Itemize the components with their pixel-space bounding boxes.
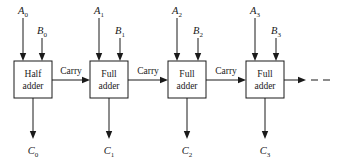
- output-c0-wire: [30, 98, 36, 139]
- adder-block-2-label-line2: adder: [176, 81, 198, 91]
- input-a0-sub: 0: [24, 11, 28, 19]
- arrowhead-icon: [262, 131, 268, 139]
- input-a0-wire: [20, 18, 26, 61]
- input-a3-wire: [252, 18, 258, 61]
- output-c3-wire: [262, 98, 268, 139]
- arrowhead-icon: [117, 53, 123, 61]
- adder-block-1[interactable]: Full adder: [90, 61, 128, 98]
- input-b2-label: B2: [193, 25, 203, 39]
- arrowhead-icon: [39, 53, 45, 61]
- input-b2-wire: [195, 38, 201, 61]
- output-c2-sub: 2: [189, 151, 193, 159]
- input-b1-wire: [117, 38, 123, 61]
- adder-block-3-label-line1: Full: [257, 69, 273, 79]
- input-a1-label: A1: [93, 5, 104, 19]
- adder-block-0-label-line2: adder: [22, 81, 44, 91]
- arrowhead-icon: [238, 77, 246, 83]
- output-c3-sub: 3: [267, 151, 271, 159]
- arrowhead-icon: [252, 53, 258, 61]
- output-c1-label: C1: [104, 145, 115, 159]
- adder-block-2[interactable]: Full adder: [168, 61, 206, 98]
- adder-diagram-canvas: Half adder Full adder Full adder Full ad…: [0, 0, 341, 164]
- arrowhead-icon: [273, 53, 279, 61]
- adder-block-3-label-line2: adder: [254, 81, 276, 91]
- adder-block-0-rect[interactable]: [14, 61, 52, 98]
- input-b0-sub: 0: [43, 31, 47, 39]
- arrowhead-icon: [160, 77, 168, 83]
- output-c1-sub: 1: [111, 151, 115, 159]
- adder-block-2-rect[interactable]: [168, 61, 206, 98]
- adder-block-3-rect[interactable]: [246, 61, 284, 98]
- adder-block-3[interactable]: Full adder: [246, 61, 284, 98]
- adder-block-0-label-line1: Half: [25, 69, 43, 79]
- input-b1-label: B1: [115, 25, 125, 39]
- ripple-carry-adder-diagram: Half adder Full adder Full adder Full ad…: [0, 0, 341, 164]
- b-input-group: [39, 38, 279, 61]
- carry-label-2: Carry: [215, 66, 237, 76]
- a-input-group: [20, 18, 258, 61]
- input-b2-sub: 2: [199, 31, 203, 39]
- arrowhead-icon: [298, 77, 306, 83]
- carry-out-continuation-wire: [284, 77, 333, 83]
- output-c2-wire: [184, 98, 190, 139]
- input-a2-label: A2: [171, 5, 182, 19]
- output-c0-label: C0: [28, 145, 39, 159]
- adder-block-2-label-line1: Full: [179, 69, 195, 79]
- arrowhead-icon: [82, 77, 90, 83]
- output-c1-wire: [106, 98, 112, 139]
- output-c2-label: C2: [182, 145, 193, 159]
- carry-link-1-wire: [128, 77, 168, 83]
- input-a1-wire: [96, 18, 102, 61]
- input-a2-wire: [174, 18, 180, 61]
- input-a0-label: A0: [17, 5, 28, 19]
- carry-label-1: Carry: [137, 66, 159, 76]
- carry-link-0-wire: [52, 77, 90, 83]
- arrowhead-icon: [96, 53, 102, 61]
- arrowhead-icon: [20, 53, 26, 61]
- c-output-group: [30, 98, 268, 139]
- adder-block-1-rect[interactable]: [90, 61, 128, 98]
- input-b3-label: B3: [271, 25, 281, 39]
- input-a3-sub: 3: [256, 11, 260, 19]
- carry-label-0: Carry: [60, 66, 82, 76]
- input-a1-sub: 1: [100, 11, 104, 19]
- output-c0-sub: 0: [35, 151, 39, 159]
- input-b1-sub: 1: [121, 31, 125, 39]
- input-a3-label: A3: [249, 5, 260, 19]
- arrowhead-icon: [30, 131, 36, 139]
- output-c3-label: C3: [260, 145, 271, 159]
- input-b3-wire: [273, 38, 279, 61]
- adder-block-1-label-line1: Full: [101, 69, 117, 79]
- arrowhead-icon: [195, 53, 201, 61]
- input-b3-sub: 3: [277, 31, 281, 39]
- adder-block-1-label-line2: adder: [98, 81, 120, 91]
- arrowhead-icon: [184, 131, 190, 139]
- carry-link-2-wire: [206, 77, 246, 83]
- input-a2-sub: 2: [178, 11, 182, 19]
- arrowhead-icon: [174, 53, 180, 61]
- adder-block-0[interactable]: Half adder: [14, 61, 52, 98]
- arrowhead-icon: [106, 131, 112, 139]
- input-b0-wire: [39, 38, 45, 61]
- input-b0-label: B0: [37, 25, 47, 39]
